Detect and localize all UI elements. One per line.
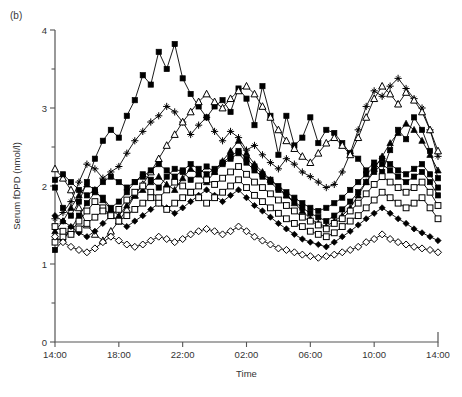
data-point — [411, 185, 417, 191]
data-point — [435, 249, 442, 256]
data-point — [188, 162, 193, 167]
data-point — [307, 239, 313, 245]
data-point — [284, 190, 289, 195]
data-point — [411, 226, 417, 232]
data-point — [299, 236, 305, 242]
data-point — [291, 221, 297, 227]
data-point — [316, 208, 321, 213]
data-point — [403, 205, 409, 211]
data-point — [403, 189, 409, 195]
data-point — [372, 164, 377, 169]
data-point — [324, 205, 329, 210]
data-point — [419, 179, 425, 185]
data-point — [60, 172, 65, 177]
x-tick-label: 22:00 — [171, 349, 195, 360]
y-tick-label: 3 — [42, 103, 47, 114]
data-point — [268, 191, 274, 197]
series-10 — [52, 148, 440, 213]
data-point — [356, 180, 361, 185]
data-point — [60, 228, 66, 234]
data-point — [299, 251, 306, 258]
data-point — [388, 148, 393, 153]
data-point — [228, 109, 233, 114]
y-tick-label: 0 — [42, 337, 47, 348]
data-point — [379, 82, 386, 89]
data-point — [220, 175, 226, 181]
series-layer — [51, 41, 441, 261]
data-point — [100, 195, 105, 200]
data-point — [387, 210, 393, 216]
data-point — [427, 234, 433, 240]
data-point — [116, 207, 122, 213]
data-point — [164, 187, 170, 193]
data-point — [388, 162, 393, 167]
data-point — [363, 191, 369, 197]
data-point — [379, 231, 386, 238]
data-point — [156, 200, 162, 206]
data-point — [331, 181, 338, 188]
data-point — [228, 169, 234, 175]
data-point — [100, 208, 106, 214]
data-point — [403, 220, 409, 226]
data-point — [236, 148, 241, 153]
data-point — [155, 155, 162, 162]
data-point — [211, 228, 218, 235]
data-point — [259, 237, 266, 244]
data-point — [132, 98, 137, 103]
data-point — [188, 177, 193, 182]
data-point — [324, 219, 329, 224]
data-point — [435, 185, 440, 190]
data-point — [52, 213, 58, 219]
data-point — [332, 201, 337, 206]
data-point — [236, 177, 242, 183]
data-point — [275, 245, 282, 252]
data-point — [172, 200, 178, 206]
data-point — [260, 185, 266, 191]
data-point — [396, 174, 401, 179]
data-point — [388, 168, 393, 173]
data-point — [140, 73, 145, 78]
x-tick-label: 02:00 — [235, 349, 259, 360]
data-point — [228, 183, 234, 189]
data-point — [116, 180, 121, 185]
figure-panel-b: (b) 0123414:0018:0022:0002:0006:0010:001… — [0, 0, 462, 397]
data-point — [268, 205, 274, 211]
data-point — [300, 201, 305, 206]
data-point — [275, 126, 282, 133]
data-point — [163, 236, 170, 243]
data-point — [419, 127, 424, 132]
data-point — [308, 205, 313, 210]
data-point — [115, 163, 122, 170]
x-tick-label: 18:00 — [107, 349, 131, 360]
data-point — [411, 200, 417, 206]
data-point — [132, 207, 138, 213]
data-point — [172, 41, 177, 46]
data-point — [68, 213, 73, 218]
data-point — [92, 187, 97, 192]
data-point — [395, 216, 401, 222]
data-point — [164, 174, 169, 179]
data-point — [84, 201, 89, 206]
data-point — [68, 180, 73, 185]
data-point — [76, 218, 82, 224]
data-point — [419, 230, 425, 236]
data-point — [308, 115, 313, 120]
data-point — [435, 193, 440, 198]
data-point — [76, 187, 81, 192]
data-point — [123, 150, 130, 157]
data-point — [244, 185, 250, 191]
data-point — [252, 123, 257, 128]
data-point — [108, 127, 113, 132]
data-point — [196, 195, 202, 201]
data-point — [188, 189, 194, 195]
data-point — [148, 189, 154, 195]
data-point — [172, 210, 178, 216]
data-point — [419, 169, 424, 174]
data-point — [427, 172, 432, 177]
data-point — [180, 76, 185, 81]
data-point — [259, 103, 266, 110]
data-point — [164, 207, 170, 213]
data-point — [403, 120, 409, 126]
data-point — [427, 246, 434, 253]
data-point — [411, 115, 416, 120]
